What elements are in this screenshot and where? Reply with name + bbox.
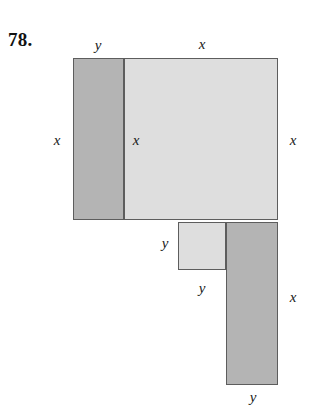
composite-figure: 78. y x x x x y y x y [0, 0, 311, 414]
label-x-bottom-right: x [290, 290, 297, 305]
small-square [178, 222, 226, 270]
label-y-small-square-left: y [162, 236, 169, 251]
large-square [124, 58, 278, 220]
bottom-right-tall-rectangle [226, 222, 278, 385]
label-y-top-left: y [95, 38, 102, 53]
label-x-top: x [199, 37, 206, 52]
label-x-inner-divider: x [133, 133, 140, 148]
label-y-bottom: y [250, 390, 257, 405]
label-x-left-outer: x [54, 133, 61, 148]
problem-number: 78. [8, 29, 32, 51]
left-tall-rectangle [73, 58, 124, 220]
label-x-right-outer: x [290, 133, 297, 148]
label-y-small-square-bottom: y [199, 281, 206, 296]
